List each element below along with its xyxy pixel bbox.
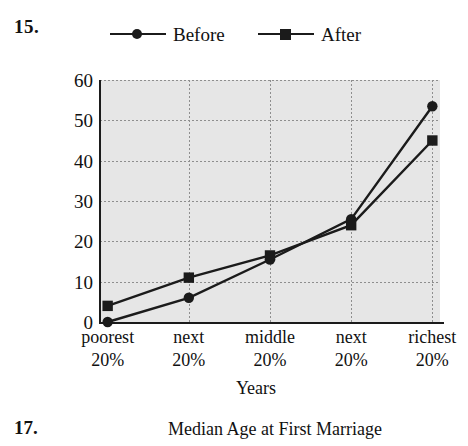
data-point-after [346, 220, 356, 230]
y-axis-tick-label: 60 [74, 71, 93, 90]
x-axis-category-label: middle20% [245, 326, 295, 372]
data-point-before [184, 293, 194, 303]
circle-marker-icon [110, 27, 166, 41]
series-line-after [108, 141, 433, 306]
data-point-after [265, 250, 275, 260]
y-axis-tick-label: 50 [74, 111, 93, 130]
x-axis-category-line2: 20% [245, 349, 295, 372]
x-axis-category-line1: next [335, 326, 368, 349]
y-axis-tick-label: 30 [74, 192, 93, 211]
question-number: 15. [14, 16, 39, 38]
x-axis-category-line2: 20% [408, 349, 456, 372]
x-axis-category-line2: 20% [335, 349, 368, 372]
legend-label-after: After [321, 25, 361, 44]
square-marker-icon [258, 27, 314, 41]
legend-item-after: After [258, 21, 361, 47]
x-axis-category-label: next20% [172, 326, 205, 372]
y-axis-tick-label: 10 [74, 272, 93, 291]
x-axis-category-line1: middle [245, 326, 295, 349]
y-axis-tick-label: 40 [74, 151, 93, 170]
x-axis-category-line2: 20% [172, 349, 205, 372]
data-point-before [427, 101, 437, 111]
footer-question-number: 17. [14, 417, 38, 439]
data-point-after [102, 301, 112, 311]
x-axis-category-line2: 20% [81, 349, 134, 372]
x-axis-labels: poorest20%next20%middle20%next20%richest… [100, 326, 440, 378]
x-axis-title: Years [0, 378, 468, 399]
x-axis-category-label: poorest20% [81, 326, 134, 372]
x-axis-category-line1: next [172, 326, 205, 349]
x-axis-category-line1: poorest [81, 326, 134, 349]
line-chart: 0102030405060 poorest20%next20%middle20%… [0, 60, 468, 410]
x-axis-line [99, 322, 444, 324]
next-question-preview: 17. Median Age at First Marriage [0, 415, 468, 446]
chart-page: 15. Before After 0102030405060 poorest20… [0, 0, 468, 446]
section-divider [0, 402, 468, 403]
legend-label-before: Before [173, 25, 225, 44]
y-axis-tick-label: 20 [74, 232, 93, 251]
x-axis-category-label: richest20% [408, 326, 456, 372]
data-point-after [184, 272, 194, 282]
data-point-after [427, 135, 437, 145]
chart-legend: Before After [110, 21, 410, 47]
x-axis-category-label: next20% [335, 326, 368, 372]
footer-chart-title: Median Age at First Marriage [168, 419, 382, 440]
data-series-layer [100, 80, 440, 322]
legend-item-before: Before [110, 21, 225, 47]
x-axis-category-line1: richest [408, 326, 456, 349]
